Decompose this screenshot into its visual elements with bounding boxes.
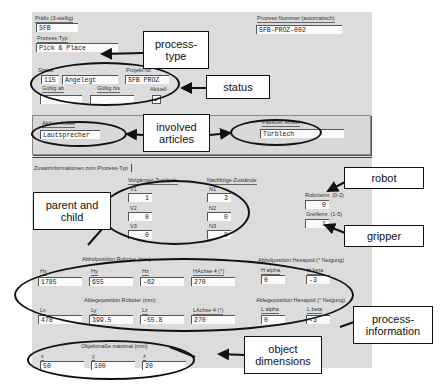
callout-object-dims: object dimensions	[244, 336, 322, 374]
process-type-field[interactable]: Pick & Place	[36, 43, 118, 52]
process-info-ellipse	[14, 258, 354, 332]
callout-gripper: gripper	[344, 225, 424, 247]
successor-title: Nachfolge-Zustände	[207, 177, 257, 185]
callout-parent-child: parent and child	[33, 192, 111, 230]
gripper-number-label: Greifernr. (1-5)	[306, 211, 342, 218]
robot-number-label: Roboternr. (0-2)	[305, 192, 344, 199]
process-number-field: SFB-PROZ-002	[256, 25, 342, 34]
process-number-label: Prozess-Nummer (automatisch)	[257, 15, 335, 23]
object-dims-ellipse	[27, 340, 195, 380]
callout-status: status	[206, 75, 270, 99]
callout-articles: involved articles	[143, 114, 210, 152]
states-ellipse	[100, 180, 250, 245]
active-article-ellipse	[31, 121, 127, 147]
callout-process-info: process- information	[353, 306, 433, 344]
process-type-label: Prozess-Typ	[37, 35, 68, 43]
callout-robot: robot	[344, 167, 424, 189]
prefix-field[interactable]: SFB	[36, 23, 78, 32]
robot-number-field[interactable]: 0	[305, 200, 329, 209]
prefix-label: Präfix (3-stellig)	[35, 15, 73, 23]
passive-article-ellipse	[230, 119, 322, 146]
divider	[32, 157, 372, 158]
tab-additional-info[interactable]: Zusatzinformationen zum Prozess-Typ	[34, 164, 132, 172]
gripper-number-field[interactable]: 1	[305, 219, 329, 228]
callout-process-type: process- type	[143, 31, 209, 69]
